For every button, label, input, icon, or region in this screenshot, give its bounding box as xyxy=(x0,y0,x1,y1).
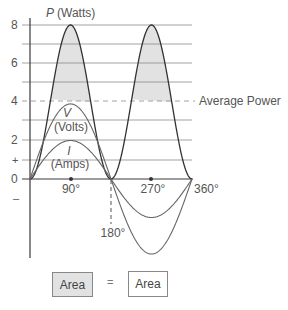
current-label: I xyxy=(67,144,71,158)
power-diagram: 8 6 4 2 + 0 – P(Watts) V (Volts) I (Amps… xyxy=(0,0,288,310)
power-curve xyxy=(30,25,192,179)
unshaded-area-box: Area xyxy=(128,271,168,297)
voltage-label: V xyxy=(63,106,72,120)
average-power-label: Average Power xyxy=(199,94,281,108)
x-tick-180: 180° xyxy=(101,226,126,240)
x-tick-360: 360° xyxy=(194,182,219,196)
y-tick-minus: – xyxy=(13,192,20,204)
voltage-unit: (Volts) xyxy=(54,120,88,134)
current-unit: (Amps) xyxy=(51,157,90,171)
tick-dot-90 xyxy=(69,177,73,181)
x-tick-90: 90° xyxy=(62,182,80,196)
power-axis-title: P(Watts) xyxy=(46,6,95,20)
y-tick-6: 6 xyxy=(11,56,18,70)
y-tick-plus: + xyxy=(12,154,18,166)
equals-sign: = xyxy=(107,276,113,288)
tick-dot-270 xyxy=(149,177,153,181)
y-tick-8: 8 xyxy=(11,18,18,32)
y-tick-4: 4 xyxy=(11,94,18,108)
y-tick-2: 2 xyxy=(11,133,18,147)
shaded-area xyxy=(51,25,172,102)
shaded-area-box: Area xyxy=(52,272,93,297)
y-tick-0: 0 xyxy=(11,172,18,186)
x-tick-270: 270° xyxy=(141,182,166,196)
